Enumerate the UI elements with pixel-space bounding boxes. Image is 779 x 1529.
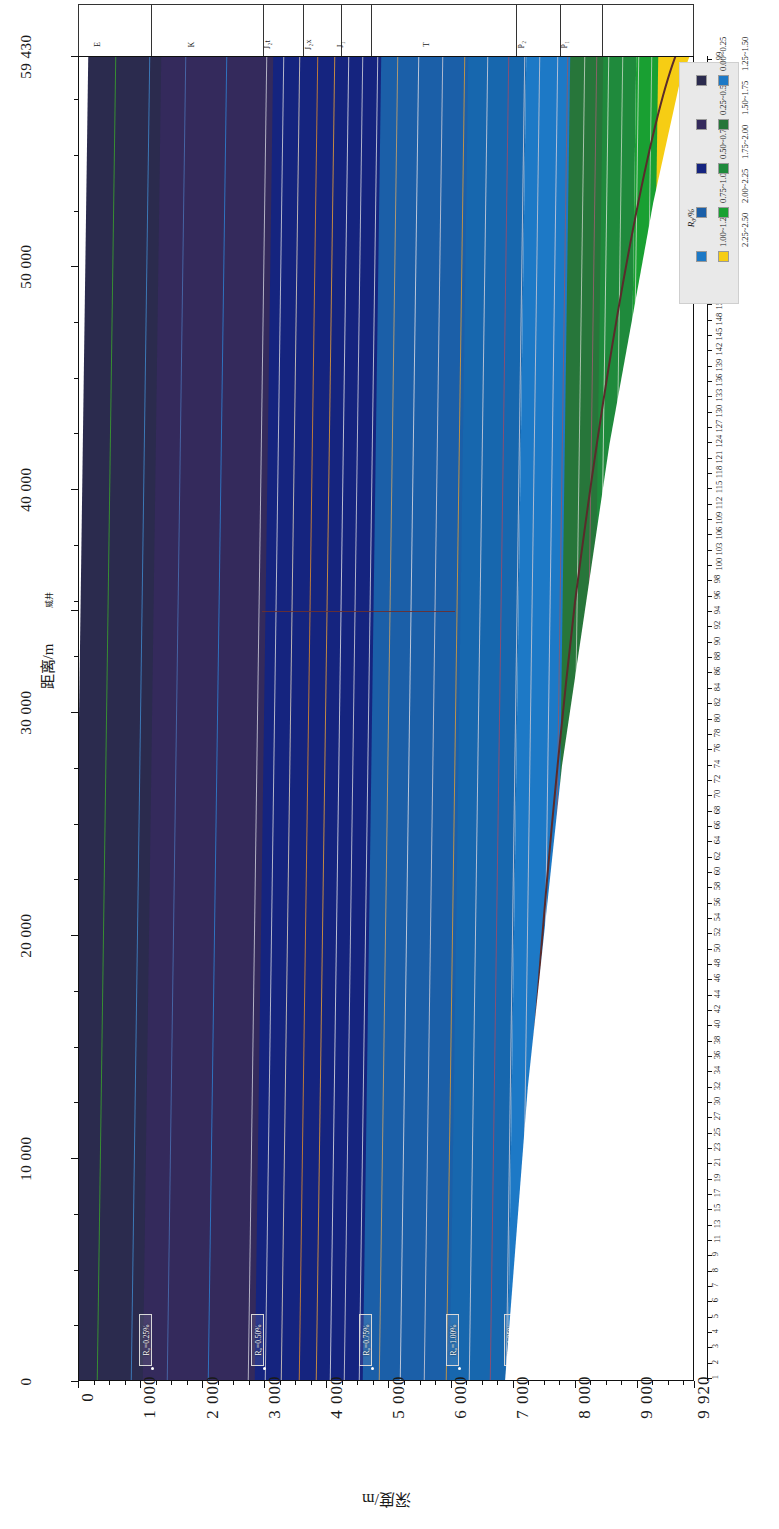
index-tick-label: 72 — [713, 774, 741, 786]
index-tick — [707, 903, 712, 904]
index-tick-label: 66 — [713, 820, 741, 832]
depth-axis-title-text: 深度/m — [362, 1489, 411, 1513]
distance-minor-tick — [74, 545, 78, 546]
index-tick — [707, 1225, 712, 1226]
depth-minor-tick — [233, 1381, 234, 1385]
legend-swatch — [696, 75, 707, 86]
index-tick — [707, 811, 712, 812]
index-tick — [707, 703, 712, 704]
index-tick-label-text: 34 — [712, 1066, 722, 1075]
index-tick-label-text: 130 — [714, 404, 724, 417]
index-tick — [707, 749, 712, 750]
distance-minor-tick — [74, 211, 78, 212]
index-tick-label-text: 19 — [712, 1173, 722, 1182]
index-tick-label-text: 23 — [712, 1143, 722, 1152]
index-tick — [707, 1179, 712, 1180]
index-tick-label-text: 44 — [712, 989, 722, 998]
depth-minor-tick — [373, 1381, 374, 1385]
depth-tick-label-text: 7 000 — [513, 1375, 533, 1418]
distance-tick — [71, 266, 78, 267]
index-tick-label-text: 148 — [714, 312, 724, 325]
index-tick — [707, 504, 712, 505]
depth-tick-label-text: 5 000 — [388, 1375, 408, 1418]
index-tick-label: 32 — [713, 1081, 741, 1093]
index-tick-label: 145 — [713, 329, 741, 341]
index-tick-label-text: 36 — [712, 1051, 722, 1060]
legend-label-text: 0.00~0.25 — [718, 37, 728, 71]
legend-item: 1.25~1.50 — [718, 71, 742, 115]
maturity-band — [143, 57, 274, 1380]
stratigraphy-cell: E — [79, 5, 152, 56]
index-tick — [707, 534, 712, 535]
index-tick-label: 92 — [713, 620, 741, 632]
index-tick — [707, 857, 712, 858]
stratigraphy-label-text: T — [422, 42, 431, 47]
legend-label-text: 2.25~2.50 — [740, 213, 750, 247]
distance-axis-title: 距离/m — [2, 656, 92, 676]
depth-minor-tick — [497, 1381, 498, 1385]
contour-callout: R₀=1.00% — [446, 1314, 459, 1366]
contour-callout-label: R₀=1.00% — [448, 1324, 457, 1355]
index-tick-label: 139 — [713, 360, 741, 372]
index-tick-label-text: 6 — [710, 1298, 720, 1302]
legend-label-text: 1.50~1.75 — [740, 81, 750, 115]
distance-minor-tick — [74, 1214, 78, 1215]
index-tick — [707, 59, 712, 60]
depth-minor-tick — [342, 1381, 343, 1385]
index-tick-label: 109 — [713, 513, 741, 525]
index-tick-label: 3 — [713, 1341, 741, 1353]
distance-tick — [71, 489, 78, 490]
index-tick-label-text: 82 — [712, 698, 722, 707]
index-tick-label: 84 — [713, 682, 741, 694]
index-tick-label: 60 — [713, 866, 741, 878]
stratigraphy-cell: J₂t — [264, 5, 304, 56]
index-tick — [707, 550, 712, 551]
index-tick-label: 62 — [713, 851, 741, 863]
index-tick-label: 74 — [713, 759, 741, 771]
legend-swatch — [718, 163, 729, 174]
depth-tick-label-text: 4 000 — [326, 1375, 346, 1418]
depth-minor-tick — [544, 1381, 545, 1385]
index-tick-label-text: 58 — [712, 882, 722, 891]
index-tick-label-text: 9 — [710, 1252, 720, 1256]
depth-minor-tick — [156, 1381, 157, 1385]
index-tick-label-text: 96 — [712, 591, 722, 600]
stratigraphy-label-text: J₂t — [263, 40, 272, 49]
stratigraphy-label-text: J₂x — [303, 39, 312, 50]
index-tick-label-text: 142 — [714, 343, 724, 356]
depth-axis: 深度/m 01 0002 0003 0004 0005 0006 0007 00… — [78, 1381, 694, 1529]
index-tick-label: 23 — [713, 1142, 741, 1154]
index-tick-label: 44 — [713, 989, 741, 1001]
index-tick-label-text: 11 — [712, 1235, 722, 1243]
index-tick-label: 142 — [713, 344, 741, 356]
contour-callout: R₀=2.25% — [636, 1314, 649, 1366]
legend-swatch — [696, 163, 707, 174]
depth-minor-tick — [621, 1381, 622, 1385]
stratigraphy-cell: P₁ — [561, 5, 603, 56]
legend-item: 0.50~0.75 — [696, 159, 720, 203]
depth-tick-label-text: 1 000 — [140, 1375, 160, 1418]
depth-tick-label: 3 000 — [229, 1391, 299, 1481]
distance-tick-label: 50 000 — [0, 258, 69, 274]
index-tick-label: 6 — [713, 1295, 741, 1307]
index-tick — [707, 795, 712, 796]
legend-swatch — [718, 251, 729, 262]
index-tick-label: 36 — [713, 1050, 741, 1062]
index-tick-label: 17 — [713, 1188, 741, 1200]
index-tick-label: 1 — [713, 1372, 741, 1384]
distance-tick-label-text: 50 000 — [18, 245, 35, 289]
legend-label-text: 1.75~2.00 — [740, 125, 750, 159]
distance-tick — [71, 712, 78, 713]
distance-tick-label-text: 40 000 — [18, 468, 35, 512]
depth-minor-tick — [590, 1381, 591, 1385]
index-tick-label-text: 17 — [712, 1189, 722, 1198]
stratigraphy-cell — [603, 5, 695, 56]
index-tick-label: 70 — [713, 789, 741, 801]
index-tick — [707, 458, 712, 459]
distance-tick-label-text: 30 000 — [18, 691, 35, 735]
depth-tick-label: 4 000 — [291, 1391, 361, 1481]
index-tick-label: 11 — [713, 1234, 741, 1246]
index-tick-label: 86 — [713, 666, 741, 678]
index-tick-label-text: 139 — [714, 358, 724, 371]
index-tick — [707, 488, 712, 489]
